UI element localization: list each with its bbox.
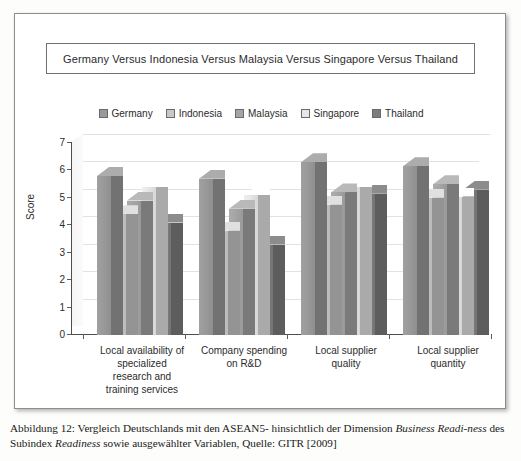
bar-side-face [273, 245, 285, 336]
bar-side-face [228, 231, 240, 335]
y-axis-tick-label: 4 [49, 219, 65, 230]
bar-side-face [315, 162, 327, 335]
x-axis-category-label: Local supplierquantity [391, 344, 505, 370]
x-axis-category-line: quantity [391, 357, 505, 370]
legend-item: Thailand [372, 108, 423, 119]
y-axis-tick-label: 5 [49, 191, 65, 202]
y-axis-tick-label: 2 [49, 274, 65, 285]
figure-caption: Abbildung 12: Vergleich Deutschlands mit… [10, 421, 510, 451]
bar [403, 166, 417, 335]
bar-top-face [403, 157, 429, 166]
bar-side-face [243, 209, 255, 335]
bar-top-face [244, 186, 270, 195]
bar-side-face [126, 214, 138, 335]
gridline [83, 134, 491, 135]
bar-side-face [171, 223, 183, 335]
legend-label: Thailand [385, 108, 423, 119]
x-axis-tick [389, 334, 390, 339]
x-axis-category-line: on R&D [187, 357, 301, 370]
bar-front-face [199, 179, 213, 335]
bar-top-face [127, 192, 153, 201]
y-axis-tick-label: 7 [49, 137, 65, 148]
caption-italic-1: Business Readi- [396, 422, 468, 434]
bar-side-face [258, 195, 270, 335]
bar-side-face [330, 205, 342, 335]
caption-italic-3: Readiness [55, 437, 100, 449]
bar-side-face [111, 176, 123, 335]
x-axis-tick [83, 334, 84, 339]
bar-side-face [477, 190, 489, 335]
bar-top-face [331, 183, 357, 192]
bar-side-face [360, 187, 372, 335]
x-axis-tick [491, 334, 492, 339]
y-axis-tick-label: 0 [49, 329, 65, 340]
x-axis-category-line: Local supplier [289, 344, 403, 357]
bar-side-face [141, 201, 153, 335]
caption-italic-2: ness [467, 422, 486, 434]
bar-side-face [432, 198, 444, 335]
bar [199, 179, 213, 335]
legend-swatch-icon [301, 109, 310, 118]
x-axis-tick [185, 334, 186, 339]
bar-top-face [301, 153, 327, 162]
bar-top-face [142, 178, 168, 187]
x-axis-category-line: Local availability of [85, 344, 199, 357]
bar-top-face [97, 167, 123, 176]
bar-side-face [345, 192, 357, 335]
legend-swatch-icon [235, 109, 244, 118]
bar-side-face [447, 184, 459, 335]
x-axis-category-labels: Local availability ofspecializedresearch… [33, 344, 489, 406]
x-axis-tick [287, 334, 288, 339]
x-axis-category-label: Local availability ofspecializedresearch… [85, 344, 199, 396]
x-axis-category-line: specialized [85, 357, 199, 370]
y-axis-tick-label: 6 [49, 164, 65, 175]
y-axis-tick-label: 1 [49, 301, 65, 312]
bar-side-face [462, 197, 474, 336]
bar-side-face [417, 166, 429, 335]
figure-frame: Germany Versus Indonesia Versus Malaysia… [14, 13, 506, 409]
legend-label: Malaysia [248, 108, 287, 119]
x-axis-category-label: Company spendingon R&D [187, 344, 301, 370]
x-axis-category-line: Company spending [187, 344, 301, 357]
x-axis-category-line: quality [289, 357, 403, 370]
legend-swatch-icon [99, 109, 108, 118]
bar [301, 162, 315, 335]
legend-label: Germany [112, 108, 153, 119]
bar-side-face [213, 179, 225, 335]
y-axis-tick-label: 3 [49, 246, 65, 257]
bar-front-face [403, 166, 417, 335]
bar-side-face [156, 187, 168, 335]
legend-swatch-icon [166, 109, 175, 118]
legend-item: Indonesia [166, 108, 222, 119]
bar-side-face [375, 194, 387, 335]
chart-title-box: Germany Versus Indonesia Versus Malaysia… [46, 43, 475, 74]
x-axis-category-line: Local supplier [391, 344, 505, 357]
y-axis-tick-labels: 01234567 [49, 142, 65, 334]
bar-top-face [229, 200, 255, 209]
x-axis-category-label: Local supplierquality [289, 344, 403, 370]
chart-legend: GermanyIndonesiaMalaysiaSingaporeThailan… [15, 108, 507, 119]
bars-layer [71, 142, 491, 335]
legend-item: Singapore [301, 108, 360, 119]
legend-item: Malaysia [235, 108, 287, 119]
plot-region: 01234567 Score [33, 134, 489, 344]
x-axis-category-line: research and [85, 370, 199, 383]
caption-part-3: sowie ausgewählter Variablen, Quelle: GI… [100, 437, 336, 449]
bar-top-face [433, 175, 459, 184]
legend-label: Singapore [314, 108, 360, 119]
bar-front-face [97, 176, 111, 335]
legend-item: Germany [99, 108, 153, 119]
legend-swatch-icon [372, 109, 381, 118]
bar-top-face [199, 170, 225, 179]
bar-front-face [301, 162, 315, 335]
caption-part-1: Abbildung 12: Vergleich Deutschlands mit… [10, 422, 396, 434]
chart-title: Germany Versus Indonesia Versus Malaysia… [63, 53, 458, 65]
x-axis-category-line: training services [85, 383, 199, 396]
bar [97, 176, 111, 335]
legend-label: Indonesia [179, 108, 222, 119]
y-axis-title: Score [25, 194, 36, 220]
